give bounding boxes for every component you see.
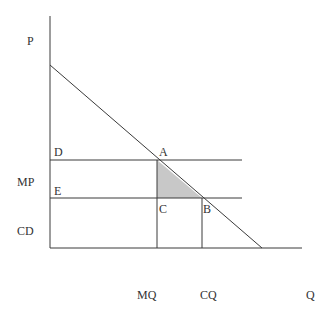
- point-e-label: E: [54, 185, 61, 197]
- point-b-label: B: [203, 203, 211, 215]
- mp-label: MP: [17, 176, 34, 188]
- point-c-label: C: [159, 203, 167, 215]
- y-axis-label: P: [27, 35, 34, 47]
- cq-label: CQ: [200, 289, 217, 301]
- diagram-canvas: P Q MP CD MQ CQ A B C D E: [0, 0, 330, 314]
- point-d-label: D: [54, 146, 63, 158]
- x-axis-label: Q: [306, 289, 315, 301]
- mq-label: MQ: [137, 289, 156, 301]
- demand-line: [50, 65, 262, 248]
- cd-label: CD: [17, 225, 34, 237]
- point-a-label: A: [159, 146, 168, 158]
- shaded-triangle: [157, 160, 202, 198]
